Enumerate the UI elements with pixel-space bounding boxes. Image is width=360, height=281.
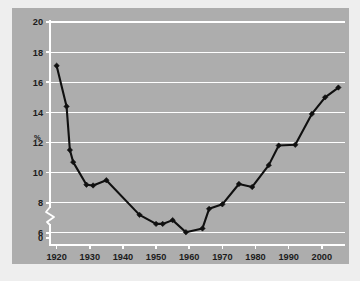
svg-text:1960: 1960 [179,252,199,262]
svg-text:1940: 1940 [113,252,133,262]
data-line [57,66,339,232]
line-chart[interactable]: 068101214161820 192019301940195019601970… [12,8,349,264]
svg-text:10: 10 [33,168,43,178]
y-axis-label: % [34,133,41,142]
svg-text:14: 14 [33,108,44,118]
data-point[interactable] [200,226,205,231]
figure: 068101214161820 192019301940195019601970… [0,0,360,281]
svg-text:1970: 1970 [212,252,232,262]
svg-text:18: 18 [33,48,43,58]
data-point[interactable] [160,221,165,226]
y-axis-break-icon [46,207,54,225]
svg-text:20: 20 [33,17,43,27]
gridlines [50,22,345,233]
svg-text:1980: 1980 [245,252,265,262]
chart-panel: 068101214161820 192019301940195019601970… [12,8,349,264]
svg-text:1920: 1920 [46,252,66,262]
data-point[interactable] [64,104,69,109]
axis-lines [49,20,345,245]
data-point[interactable] [90,183,95,188]
svg-text:1930: 1930 [80,252,100,262]
svg-text:1990: 1990 [278,252,298,262]
x-axis-ticks: 192019301940195019601970198019902000 [46,245,332,262]
data-point[interactable] [54,63,59,68]
svg-text:2000: 2000 [312,252,332,262]
svg-text:6: 6 [38,228,43,238]
data-point[interactable] [206,206,211,211]
svg-text:16: 16 [33,78,43,88]
svg-text:1950: 1950 [146,252,166,262]
svg-text:8: 8 [38,198,43,208]
data-point[interactable] [67,147,72,152]
data-points[interactable] [54,63,341,235]
